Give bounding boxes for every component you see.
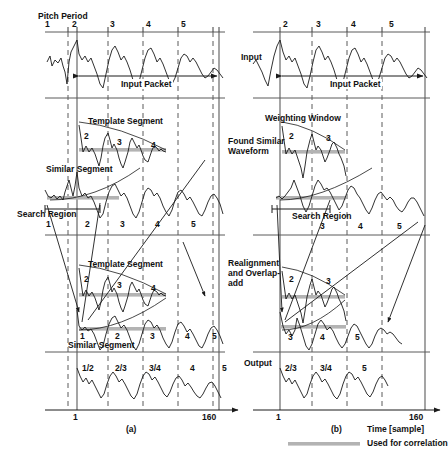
caption-b: (b) bbox=[331, 424, 342, 434]
rsim-period-b-5: 5 bbox=[355, 332, 360, 342]
alignment-connector-a bbox=[47, 160, 205, 322]
pitch-tick-a-3: 3 bbox=[110, 19, 115, 29]
rtpl-period-a-4: 4 bbox=[151, 283, 156, 293]
rtpl-period-b-2: 2 bbox=[289, 274, 294, 284]
sim-period-a-4: 4 bbox=[155, 219, 160, 229]
pitch-tick-a-5: 5 bbox=[181, 19, 186, 29]
pitch-tick-a-4: 4 bbox=[146, 19, 151, 29]
axis-start-a: 1 bbox=[73, 412, 78, 422]
tpl-period-b-2: 2 bbox=[289, 131, 294, 141]
template-segment-label-a: Template Segment bbox=[88, 116, 163, 126]
sim-period-a-2: 2 bbox=[85, 219, 90, 229]
out-period-b-1: 2/3 bbox=[285, 363, 297, 373]
legend-label: Used for correlation bbox=[367, 438, 448, 448]
rsim-period-a-3: 3 bbox=[150, 331, 155, 341]
out-period-a-5: 5 bbox=[222, 363, 227, 373]
sim-period-b-5: 5 bbox=[397, 221, 402, 231]
sim-period-a-5: 5 bbox=[191, 219, 196, 229]
sim-period-b-3: 3 bbox=[320, 221, 325, 231]
search-region-label-b: Search Region bbox=[292, 211, 352, 221]
search-region-label-a: Search Region bbox=[17, 209, 77, 219]
time-axis-label: Time [sample] bbox=[367, 424, 424, 434]
weighting-window-label-b: Weighting Window bbox=[265, 113, 341, 123]
out-period-a-2: 2/3 bbox=[115, 363, 127, 373]
row-label-realignment: Realignment and Overlap- add bbox=[228, 258, 280, 288]
sim-period-b-4: 4 bbox=[358, 221, 363, 231]
rtpl-period-a-2: 2 bbox=[84, 274, 89, 284]
axis-end-b: 160 bbox=[409, 412, 423, 422]
axis-start-b: 1 bbox=[276, 412, 281, 422]
input-packet-label-a: Input Packet bbox=[120, 79, 173, 89]
correlation-band-b4 bbox=[280, 325, 346, 329]
rsim-period-b-4: 4 bbox=[320, 332, 325, 342]
tpl-period-a-3: 3 bbox=[117, 137, 122, 147]
out-period-a-1: 1/2 bbox=[82, 363, 94, 373]
input-packet-label-b: Input Packet bbox=[329, 79, 382, 89]
rsim-period-a-4: 4 bbox=[185, 331, 190, 341]
out-period-a-4: 4 bbox=[190, 363, 195, 373]
out-period-b-2: 3/4 bbox=[320, 363, 332, 373]
pitch-tick-b-2: 2 bbox=[283, 19, 288, 29]
tpl-period-a-4: 4 bbox=[151, 140, 156, 150]
rsim-period-b-3: 3 bbox=[288, 332, 293, 342]
out-period-a-3: 3/4 bbox=[149, 363, 161, 373]
realign-similar-waveform-b bbox=[280, 312, 402, 350]
similar-segment-label-a: Similar Segment bbox=[46, 164, 113, 174]
tpl-period-b-3: 3 bbox=[326, 133, 331, 143]
realignment-arrow bbox=[183, 242, 205, 296]
pitch-tick-a-1: 1 bbox=[45, 19, 50, 29]
similar-segment-label-a2: Similar Segment bbox=[68, 340, 135, 350]
caption-a: (a) bbox=[126, 424, 136, 434]
pitch-tick-b-3: 3 bbox=[316, 19, 321, 29]
row-label-output: Output bbox=[244, 358, 272, 368]
pitch-tick-b-4: 4 bbox=[351, 19, 356, 29]
pitch-tick-b-5: 5 bbox=[389, 19, 394, 29]
panel-a-pitch-ticks bbox=[68, 27, 219, 32]
sim-period-a-1: 1 bbox=[46, 219, 51, 229]
rtpl-period-b-3: 3 bbox=[326, 276, 331, 286]
correlation-band-a3 bbox=[79, 293, 166, 297]
pitch-tick-a-2: 2 bbox=[72, 19, 77, 29]
rsim-period-a-5: 5 bbox=[212, 331, 217, 341]
template-segment-label-a2: Template Segment bbox=[88, 259, 163, 269]
tpl-period-a-2: 2 bbox=[84, 131, 89, 141]
out-period-b-3: 5 bbox=[362, 363, 367, 373]
axis-end-a: 160 bbox=[202, 412, 216, 422]
row-label-input: Input bbox=[241, 52, 262, 62]
sim-period-a-3: 3 bbox=[120, 219, 125, 229]
row-label-found-similar: Found Similar Waveform bbox=[228, 136, 285, 156]
legend-swatch bbox=[288, 442, 360, 446]
rtpl-period-a-3: 3 bbox=[117, 280, 122, 290]
